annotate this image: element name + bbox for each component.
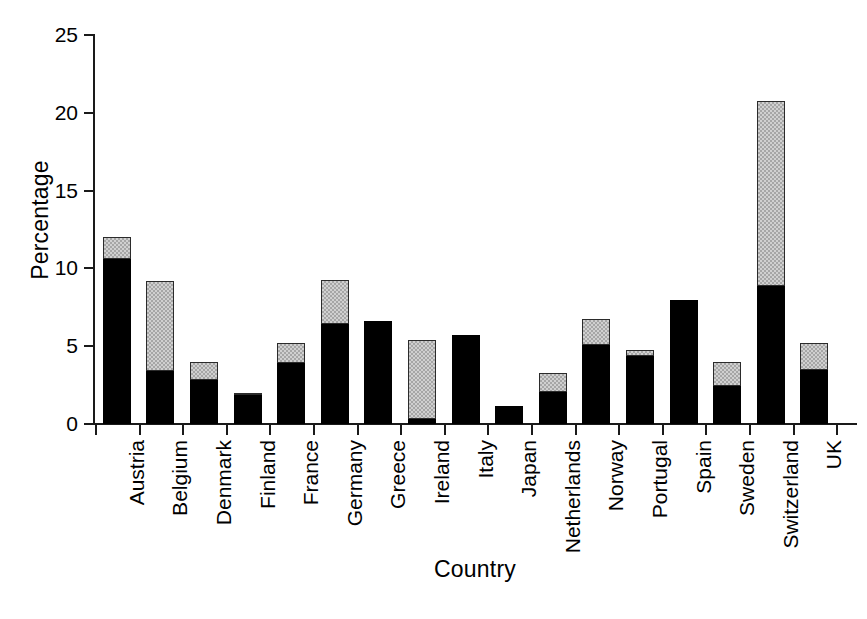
bar-segment-black — [452, 335, 480, 424]
bar-portugal — [626, 350, 654, 424]
x-axis-tick — [357, 425, 359, 435]
x-axis-tick — [182, 425, 184, 435]
x-axis-tick — [793, 425, 795, 435]
x-axis-title: Country — [95, 556, 855, 583]
y-axis-tick-label: 15 — [28, 180, 78, 201]
x-axis-tick — [487, 425, 489, 435]
bar-spain — [670, 300, 698, 424]
bar-sweden — [713, 362, 741, 424]
y-axis-tick-label-text: 0 — [38, 413, 78, 434]
x-axis-tick — [618, 425, 620, 435]
bar-segment-black — [670, 300, 698, 424]
y-axis-tick-label-text: 10 — [38, 257, 78, 278]
y-axis-tick-label: 5 — [28, 335, 78, 356]
bar-segment-gray — [321, 280, 349, 324]
y-axis-line — [93, 34, 95, 425]
bar-segment-gray — [103, 237, 131, 259]
bar-germany — [321, 280, 349, 424]
y-axis-tick — [84, 423, 93, 425]
bar-segment-gray — [800, 343, 828, 369]
bar-chart-figure: Percentage 0510152025 AustriaBelgiumDenm… — [0, 0, 867, 619]
bar-italy — [452, 335, 480, 424]
bar-segment-gray — [539, 373, 567, 392]
y-axis-title: Percentage — [18, 0, 62, 440]
bar-segment-black — [234, 395, 262, 424]
x-axis-tick — [749, 425, 751, 435]
bar-segment-black — [408, 419, 436, 424]
bar-segment-gray — [190, 362, 218, 380]
bar-segment-gray — [757, 101, 785, 286]
y-axis-tick — [84, 267, 93, 269]
y-axis-tick-label-text: 20 — [38, 102, 78, 123]
bar-segment-gray — [277, 343, 305, 363]
bar-belgium — [146, 281, 174, 424]
x-axis-tick — [269, 425, 271, 435]
bar-greece — [364, 321, 392, 424]
y-axis-tick — [84, 345, 93, 347]
bar-segment-black — [539, 392, 567, 424]
bar-ireland — [408, 340, 436, 424]
bar-segment-black — [582, 345, 610, 424]
bar-norway — [582, 319, 610, 424]
x-axis-tick — [226, 425, 228, 435]
y-axis-tick — [84, 34, 93, 36]
bar-segment-black — [495, 406, 523, 424]
bar-segment-black — [626, 356, 654, 424]
y-axis-tick-label-text: 25 — [38, 24, 78, 45]
y-axis-tick-label: 10 — [28, 257, 78, 278]
bar-segment-black — [321, 324, 349, 424]
bar-netherlands — [539, 373, 567, 424]
x-axis-tick — [313, 425, 315, 435]
bar-segment-black — [713, 386, 741, 424]
bar-switzerland — [757, 101, 785, 424]
y-axis-tick — [84, 190, 93, 192]
y-axis-tick-label: 25 — [28, 24, 78, 45]
bar-denmark — [190, 362, 218, 424]
x-axis-tick — [400, 425, 402, 435]
y-axis-tick — [84, 112, 93, 114]
x-axis-tick — [531, 425, 533, 435]
x-axis-tick — [836, 425, 838, 435]
bar-segment-gray — [582, 319, 610, 345]
bar-segment-black — [800, 370, 828, 424]
bar-segment-black — [190, 380, 218, 424]
bar-segment-gray — [146, 281, 174, 371]
y-axis-tick-label-text: 5 — [38, 335, 78, 356]
bar-segment-black — [757, 286, 785, 424]
x-axis-tick — [705, 425, 707, 435]
x-axis-tick — [139, 425, 141, 435]
bar-france — [277, 343, 305, 424]
bar-segment-black — [277, 363, 305, 424]
x-axis-tick — [444, 425, 446, 435]
x-axis-tick — [575, 425, 577, 435]
y-axis-tick-label: 0 — [28, 413, 78, 434]
bar-japan — [495, 406, 523, 424]
x-axis-tick — [95, 425, 97, 435]
bar-segment-gray — [713, 362, 741, 386]
y-axis-tick-label-text: 15 — [38, 180, 78, 201]
bar-segment-gray — [408, 340, 436, 419]
x-axis-tick — [662, 425, 664, 435]
bar-segment-black — [364, 321, 392, 424]
bar-segment-black — [103, 259, 131, 424]
y-axis-tick-label: 20 — [28, 102, 78, 123]
bar-finland — [234, 393, 262, 424]
bar-austria — [103, 237, 131, 424]
bar-uk — [800, 343, 828, 424]
bar-segment-black — [146, 371, 174, 424]
